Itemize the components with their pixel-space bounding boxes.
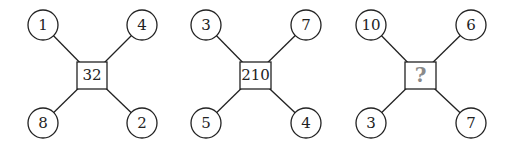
value-bottom-right: 7: [466, 114, 476, 132]
figure-2: 3 7 5 4 210: [191, 10, 321, 138]
value-bottom-right: 2: [137, 114, 147, 132]
value-center: 210: [241, 66, 270, 84]
value-bottom-left: 3: [366, 114, 376, 132]
value-top-right: 6: [466, 16, 476, 34]
question-mark-center: ?: [415, 63, 427, 87]
value-bottom-left: 8: [38, 114, 48, 132]
figure-3: 10 6 3 7 ?: [356, 10, 486, 138]
number-puzzle-diagram: 1 4 8 2 32 3 7 5 4 210 10 6 3 7 ?: [0, 0, 513, 152]
value-top-left: 10: [361, 16, 380, 34]
value-center: 32: [82, 66, 101, 84]
value-top-left: 3: [201, 16, 211, 34]
figure-1: 1 4 8 2 32: [28, 10, 157, 138]
value-top-right: 7: [301, 16, 311, 34]
value-top-right: 4: [137, 16, 147, 34]
value-bottom-left: 5: [201, 114, 211, 132]
value-top-left: 1: [38, 16, 48, 34]
value-bottom-right: 4: [301, 114, 311, 132]
